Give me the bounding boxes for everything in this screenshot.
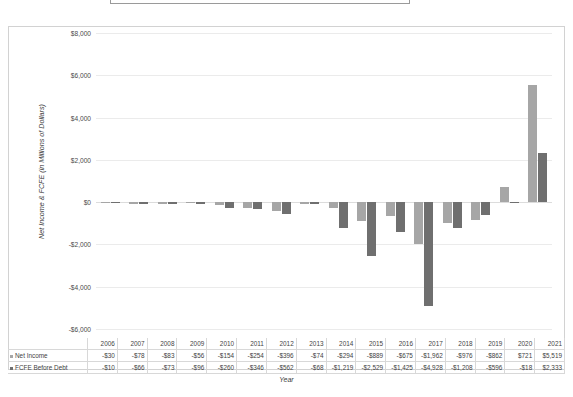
table-header-year: 2018 xyxy=(445,338,475,350)
y-tick-label: $2,000 xyxy=(71,156,91,163)
bar xyxy=(310,202,319,203)
bar xyxy=(282,202,291,214)
data-table-wrapper: 2006200720082009201020112012201320142015… xyxy=(8,338,565,383)
bar-group xyxy=(296,33,325,329)
table-header-year: 2015 xyxy=(356,338,386,350)
legend-label: FCFE Before Debt xyxy=(15,364,68,371)
table-cell-value: -$78 xyxy=(117,350,147,362)
bar-group xyxy=(410,33,439,329)
table-cell-value: -$56 xyxy=(177,350,207,362)
y-tick-label: $4,000 xyxy=(71,114,91,121)
bar xyxy=(453,202,462,228)
table-header-year: 2010 xyxy=(207,338,237,350)
bar xyxy=(215,202,224,205)
table-cell-value: $2,333 xyxy=(535,362,565,374)
table-cell-value: -$346 xyxy=(237,362,267,374)
bar xyxy=(386,202,395,216)
bar-group xyxy=(153,33,182,329)
table-cell-value: -$73 xyxy=(147,362,177,374)
table-cell-value: -$30 xyxy=(88,350,118,362)
table-cell-value: -$66 xyxy=(117,362,147,374)
bar xyxy=(158,202,167,204)
bar xyxy=(471,202,480,220)
bar xyxy=(329,202,338,208)
table-corner xyxy=(8,338,88,350)
table-row-years: 2006200720082009201020112012201320142015… xyxy=(8,338,565,350)
table-cell-value: -$18 xyxy=(505,362,535,374)
table-cell-value: -$254 xyxy=(237,350,267,362)
y-tick-label: $0 xyxy=(84,199,91,206)
bar xyxy=(414,202,423,243)
bar xyxy=(272,202,281,210)
bar-group xyxy=(438,33,467,329)
bar xyxy=(339,202,348,228)
table-cell-value: -$10 xyxy=(88,362,118,374)
bar xyxy=(357,202,366,221)
table-header-year: 2021 xyxy=(535,338,565,350)
table-cell-value: -$96 xyxy=(177,362,207,374)
bar xyxy=(101,202,110,203)
bar-group xyxy=(125,33,154,329)
table-cell-value: -$1,219 xyxy=(326,362,356,374)
y-tick-label: $6,000 xyxy=(71,72,91,79)
bar xyxy=(129,202,138,204)
bar xyxy=(168,202,177,204)
table-cell-value: -$294 xyxy=(326,350,356,362)
table-cell-value: -$976 xyxy=(445,350,475,362)
y-tick-label: -$2,000 xyxy=(69,241,91,248)
table-header-year: 2019 xyxy=(475,338,505,350)
bar xyxy=(139,202,148,203)
table-row: Net Income-$30-$78-$83-$56-$154-$254-$39… xyxy=(8,350,565,362)
bar-group xyxy=(239,33,268,329)
table-header-year: 2008 xyxy=(147,338,177,350)
table-cell-value: $721 xyxy=(505,350,535,362)
table-cell-value: -$154 xyxy=(207,350,237,362)
bar-group xyxy=(467,33,496,329)
table-cell-value: -$862 xyxy=(475,350,505,362)
legend-label: Net Income xyxy=(15,352,48,359)
y-tick-label: $8,000 xyxy=(71,30,91,37)
table-cell-value: -$260 xyxy=(207,362,237,374)
bar xyxy=(538,153,547,202)
table-cell-value: -$83 xyxy=(147,350,177,362)
table-header-year: 2020 xyxy=(505,338,535,350)
table-row: FCFE Before Debt-$10-$66-$73-$96-$260-$3… xyxy=(8,362,565,374)
table-cell-value: -$675 xyxy=(386,350,416,362)
table-cell-value: -$68 xyxy=(296,362,326,374)
bar xyxy=(253,202,262,209)
bar-group xyxy=(96,33,125,329)
bar xyxy=(367,202,376,255)
table-header-year: 2016 xyxy=(386,338,416,350)
bar xyxy=(186,202,195,203)
table-cell-value: -$2,529 xyxy=(356,362,386,374)
bar xyxy=(225,202,234,207)
bar-group xyxy=(524,33,553,329)
table-cell-value: -$1,425 xyxy=(386,362,416,374)
bar xyxy=(196,202,205,204)
chart-frame: Net Income & FCFE (in Millions of Dollar… xyxy=(8,26,565,370)
legend-item-net-income: Net Income xyxy=(8,350,88,362)
bar xyxy=(424,202,433,306)
bar xyxy=(510,202,519,203)
bar xyxy=(500,187,509,202)
table-header-year: 2007 xyxy=(117,338,147,350)
bar xyxy=(111,202,120,203)
y-axis-title: Net Income & FCFE (in Millions of Dollar… xyxy=(37,72,46,272)
bar-group xyxy=(495,33,524,329)
plot-area: $8,000$6,000$4,000$2,000$0-$2,000-$4,000… xyxy=(96,33,552,329)
bar xyxy=(528,85,537,202)
y-tick-label: -$6,000 xyxy=(69,326,91,333)
table-cell-value: $5,519 xyxy=(535,350,565,362)
bar xyxy=(396,202,405,232)
bar-group xyxy=(381,33,410,329)
table-cell-value: -$596 xyxy=(475,362,505,374)
table-cell-value: -$4,928 xyxy=(415,362,445,374)
table-header-year: 2013 xyxy=(296,338,326,350)
bar-group xyxy=(210,33,239,329)
data-table: 2006200720082009201020112012201320142015… xyxy=(8,338,565,374)
table-header-year: 2014 xyxy=(326,338,356,350)
table-header-year: 2017 xyxy=(415,338,445,350)
table-cell-value: -$1,208 xyxy=(445,362,475,374)
legend-item-fcfe-before-debt: FCFE Before Debt xyxy=(8,362,88,374)
x-axis-title: Year xyxy=(8,374,565,383)
